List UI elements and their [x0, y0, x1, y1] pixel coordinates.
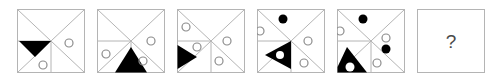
inner-white-circle — [276, 51, 284, 59]
panel-3-graphic — [177, 9, 245, 73]
panel-2-graphic — [97, 9, 165, 73]
puzzle-panel-2[interactable] — [97, 9, 165, 73]
panel-4-graphic — [257, 9, 325, 73]
puzzle-panel-3[interactable] — [177, 9, 245, 73]
panel-1-graphic — [17, 9, 85, 73]
puzzle-panel-5[interactable] — [337, 9, 405, 73]
puzzle-panel-4[interactable] — [257, 9, 325, 73]
filled-dot — [359, 15, 368, 24]
puzzle-row: ? — [0, 0, 493, 82]
filled-dot — [382, 45, 391, 54]
puzzle-answer-panel[interactable]: ? — [417, 9, 485, 73]
question-mark-label: ? — [417, 9, 485, 73]
puzzle-panel-1[interactable] — [17, 9, 85, 73]
panel-5-graphic — [337, 9, 405, 73]
inner-white-circle — [346, 63, 355, 72]
filled-dot — [279, 15, 288, 24]
